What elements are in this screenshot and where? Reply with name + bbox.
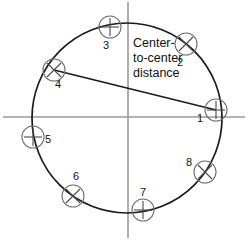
marker-4: 4 <box>43 59 65 90</box>
callout-line-1: Center- <box>133 36 175 50</box>
marker-label-1: 1 <box>197 112 203 124</box>
marker-label-3: 3 <box>103 39 109 51</box>
callout-line-2: to-center <box>133 51 182 65</box>
marker-label-6: 6 <box>73 170 79 182</box>
diagram-canvas: 1 2 3 4 5 <box>0 0 247 240</box>
marker-label-5: 5 <box>45 133 51 145</box>
marker-label-4: 4 <box>55 78 61 90</box>
marker-3: 3 <box>99 16 121 51</box>
marker-7: 7 <box>132 186 154 221</box>
marker-label-7: 7 <box>140 186 146 198</box>
callout-line-3: distance <box>133 66 180 80</box>
marker-label-8: 8 <box>186 156 192 168</box>
circle-layout-diagram: 1 2 3 4 5 <box>0 0 247 240</box>
